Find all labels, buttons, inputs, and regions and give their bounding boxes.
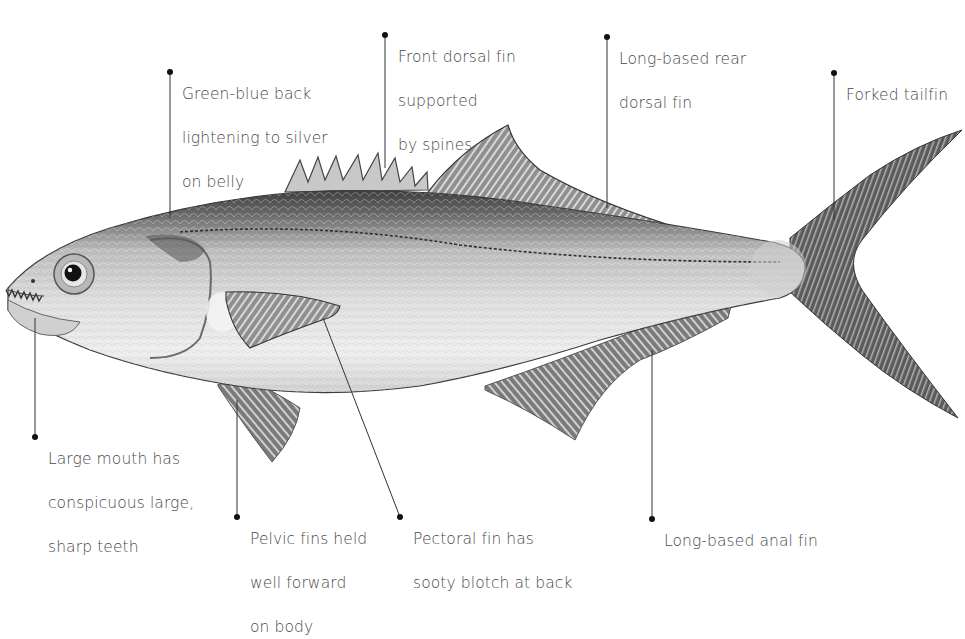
label-pelvic-line: Pelvic fins held [250, 528, 367, 550]
label-mouth: Large mouth has conspicuous large, sharp… [48, 426, 194, 580]
dot-mouth [32, 434, 38, 440]
label-pelvic: Pelvic fins held well forward on body [250, 506, 367, 639]
fish-body [8, 191, 806, 393]
label-mouth-line: conspicuous large, [48, 492, 194, 514]
label-rear-dorsal: Long-based rear dorsal fin [619, 26, 746, 136]
label-pelvic-line: well forward [250, 572, 367, 594]
label-back-line: lightening to silver [182, 127, 328, 149]
dot-pelvic [234, 514, 240, 520]
label-mouth-line: Large mouth has [48, 448, 194, 470]
dot-pectoral [397, 514, 403, 520]
tail-fin [790, 130, 962, 418]
label-mouth-line: sharp teeth [48, 536, 194, 558]
label-front-dorsal-line: by spines [398, 134, 516, 156]
label-front-dorsal-line: supported [398, 90, 516, 112]
label-tail: Forked tailfin [846, 62, 948, 128]
label-tail-line: Forked tailfin [846, 84, 948, 106]
eye [54, 254, 94, 294]
label-anal-line: Long-based anal fin [664, 530, 818, 552]
label-rear-dorsal-line: Long-based rear [619, 48, 746, 70]
label-pectoral-line: sooty blotch at back [413, 572, 573, 594]
label-anal: Long-based anal fin [664, 508, 818, 574]
label-back: Green-blue back lightening to silver on … [182, 61, 328, 215]
dot-rear-dorsal [604, 34, 610, 40]
label-pelvic-line: on body [250, 616, 367, 638]
label-front-dorsal: Front dorsal fin supported by spines [398, 24, 516, 178]
label-rear-dorsal-line: dorsal fin [619, 92, 746, 114]
label-pectoral-line: Pectoral fin has [413, 528, 573, 550]
dot-back [167, 69, 173, 75]
label-back-line: on belly [182, 171, 328, 193]
dot-front-dorsal [382, 32, 388, 38]
label-pectoral: Pectoral fin has sooty blotch at back [413, 506, 573, 616]
pelvic-fin [218, 384, 300, 462]
label-back-line: Green-blue back [182, 83, 328, 105]
label-front-dorsal-line: Front dorsal fin [398, 46, 516, 68]
dot-anal [649, 516, 655, 522]
dot-tail [831, 70, 837, 76]
